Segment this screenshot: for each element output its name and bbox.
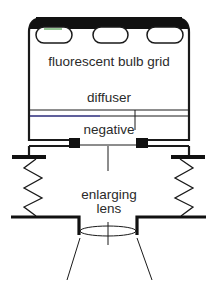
negative-carrier [29,140,189,146]
label-fluorescent-bulb-grid: fluorescent bulb grid [0,54,218,69]
lens-board-left [11,217,79,235]
bellows-top-plate-left [12,155,46,159]
enlarger-diagram [0,0,218,290]
negative-holder-left [69,138,80,148]
lens-board-right [137,217,206,235]
label-lens: lens [0,201,218,216]
negative-holder-right [136,138,148,148]
bellows-top-plate-right [171,155,205,159]
label-enlarging: enlarging [0,187,218,202]
bulb-2 [93,27,128,43]
bulb-3 [147,27,183,43]
light-ray-left [67,238,80,280]
bellows-frame [29,146,189,157]
label-negative: negative [0,122,218,137]
light-ray-right [137,238,152,280]
label-diffuser: diffuser [0,90,218,105]
